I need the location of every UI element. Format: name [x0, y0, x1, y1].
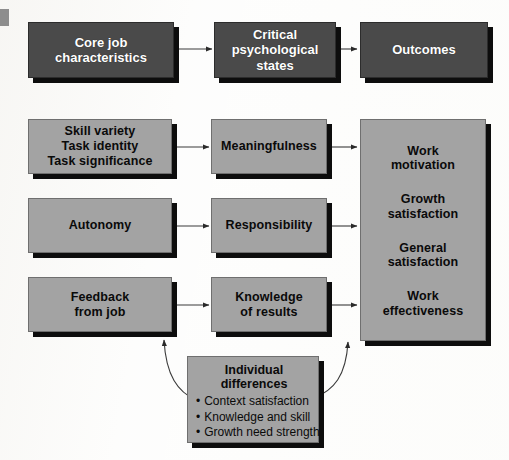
list-item-knowledge-and-skill: Knowledge and skill: [196, 410, 312, 426]
label-responsibility: Responsibility: [212, 218, 326, 233]
label-autonomy: Autonomy: [29, 218, 171, 233]
text-task-significance: Task significance: [48, 154, 153, 168]
outcome-item-work-motivation: Work motivation: [367, 134, 479, 183]
text-general: General: [399, 241, 446, 255]
list-item-growth-need-strength: Growth need strength: [196, 425, 312, 441]
label-individual-differences-title: Individual differences: [196, 363, 312, 392]
text-motivation: motivation: [391, 158, 455, 172]
header-box-core-job-characteristics[interactable]: Core job characteristics: [28, 22, 174, 78]
box-feedback-from-job[interactable]: Feedback from job: [28, 277, 172, 332]
header-box-outcomes[interactable]: Outcomes: [360, 22, 488, 78]
label-meaningfulness: Meaningfulness: [212, 139, 326, 154]
header-box-critical-psychological-states[interactable]: Critical psychological states: [214, 22, 336, 78]
text-feedback: Feedback: [71, 290, 129, 304]
header-label-critical-psychological-states: Critical psychological states: [215, 27, 335, 73]
individual-differences-list: Context satisfaction Knowledge and skill…: [196, 394, 312, 441]
text-of-results: of results: [240, 305, 297, 319]
text-general-satisfaction: satisfaction: [388, 255, 459, 269]
text-knowledge: Knowledge: [235, 290, 303, 304]
box-responsibility[interactable]: Responsibility: [211, 198, 327, 253]
list-item-context-satisfaction: Context satisfaction: [196, 394, 312, 410]
text-individual: Individual: [225, 363, 283, 377]
text-work-2: Work: [407, 289, 438, 303]
text-work: Work: [407, 144, 438, 158]
box-autonomy[interactable]: Autonomy: [28, 198, 172, 253]
diagram-canvas: Core job characteristics Critical psycho…: [0, 0, 509, 460]
box-skill-variety-group[interactable]: Skill variety Task identity Task signifi…: [28, 119, 172, 174]
text-from-job: from job: [75, 305, 126, 319]
outcome-item-growth-satisfaction: Growth satisfaction: [367, 183, 479, 232]
text-effectiveness: effectiveness: [383, 304, 464, 318]
label-knowledge-of-results: Knowledge of results: [212, 290, 326, 320]
label-feedback-from-job: Feedback from job: [29, 290, 171, 320]
page-edge-mark: [0, 9, 9, 26]
outcome-item-work-effectiveness: Work effectiveness: [367, 280, 479, 329]
outcome-item-general-satisfaction: General satisfaction: [367, 231, 479, 280]
text-growth-satisfaction: satisfaction: [388, 207, 459, 221]
label-skill-variety-group: Skill variety Task identity Task signifi…: [29, 124, 171, 168]
box-individual-differences[interactable]: Individual differences Context satisfact…: [187, 356, 319, 443]
box-meaningfulness[interactable]: Meaningfulness: [211, 119, 327, 174]
arrow-individual-differences-to-outcomes: [314, 342, 348, 398]
header-label-outcomes: Outcomes: [361, 42, 487, 57]
text-growth: Growth: [401, 192, 445, 206]
header-label-core-job-characteristics: Core job characteristics: [29, 35, 173, 66]
box-outcomes-list[interactable]: Work motivation Growth satisfaction Gene…: [360, 119, 486, 341]
box-knowledge-of-results[interactable]: Knowledge of results: [211, 277, 327, 332]
text-differences: differences: [221, 377, 288, 391]
text-skill-variety: Skill variety: [65, 124, 136, 138]
text-task-identity: Task identity: [62, 139, 139, 153]
